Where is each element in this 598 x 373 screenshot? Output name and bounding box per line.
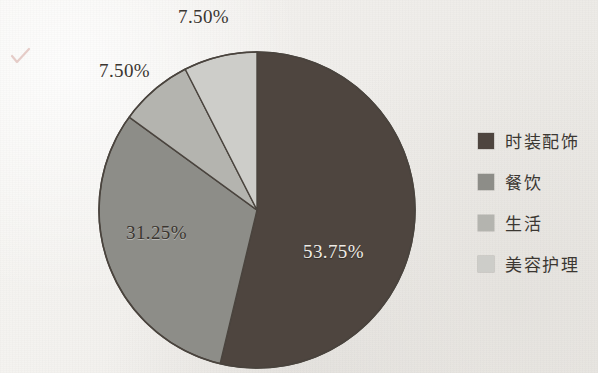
legend-item[interactable]: 美容护理: [478, 243, 598, 284]
pie-label-beauty: 7.50%: [178, 6, 229, 28]
legend-item-label: 生活: [505, 210, 542, 235]
chart-legend: 时装配饰餐饮生活美容护理: [478, 120, 598, 284]
legend-item[interactable]: 生活: [478, 202, 598, 243]
legend-color-swatch: [478, 256, 494, 272]
legend-color-swatch: [478, 174, 494, 190]
legend-item[interactable]: 餐饮: [478, 161, 598, 202]
legend-item-label: 餐饮: [505, 169, 542, 194]
pie-label-dining: 31.25%: [126, 222, 187, 244]
legend-item[interactable]: 时装配饰: [478, 120, 598, 161]
legend-item-label: 美容护理: [505, 251, 579, 276]
pie-label-fashion: 53.75%: [303, 241, 364, 263]
legend-color-swatch: [478, 133, 494, 149]
legend-item-label: 时装配饰: [505, 128, 579, 153]
pie-label-life: 7.50%: [99, 60, 150, 82]
legend-color-swatch: [478, 215, 494, 231]
